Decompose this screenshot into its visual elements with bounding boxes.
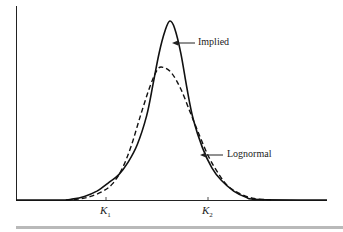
implied-label: Implied [198, 36, 229, 47]
lognormal-curve [66, 67, 271, 200]
k2-label: K2 [202, 204, 213, 219]
chart-canvas [0, 0, 343, 232]
arrowhead-icon [200, 153, 206, 158]
lognormal-arrow [200, 153, 223, 158]
implied-curve [16, 21, 327, 200]
figure-divider [16, 226, 343, 229]
arrowhead-icon [172, 41, 178, 46]
lognormal-label: Lognormal [227, 148, 271, 159]
implied-arrow [172, 41, 195, 46]
k1-label: K1 [100, 204, 111, 219]
